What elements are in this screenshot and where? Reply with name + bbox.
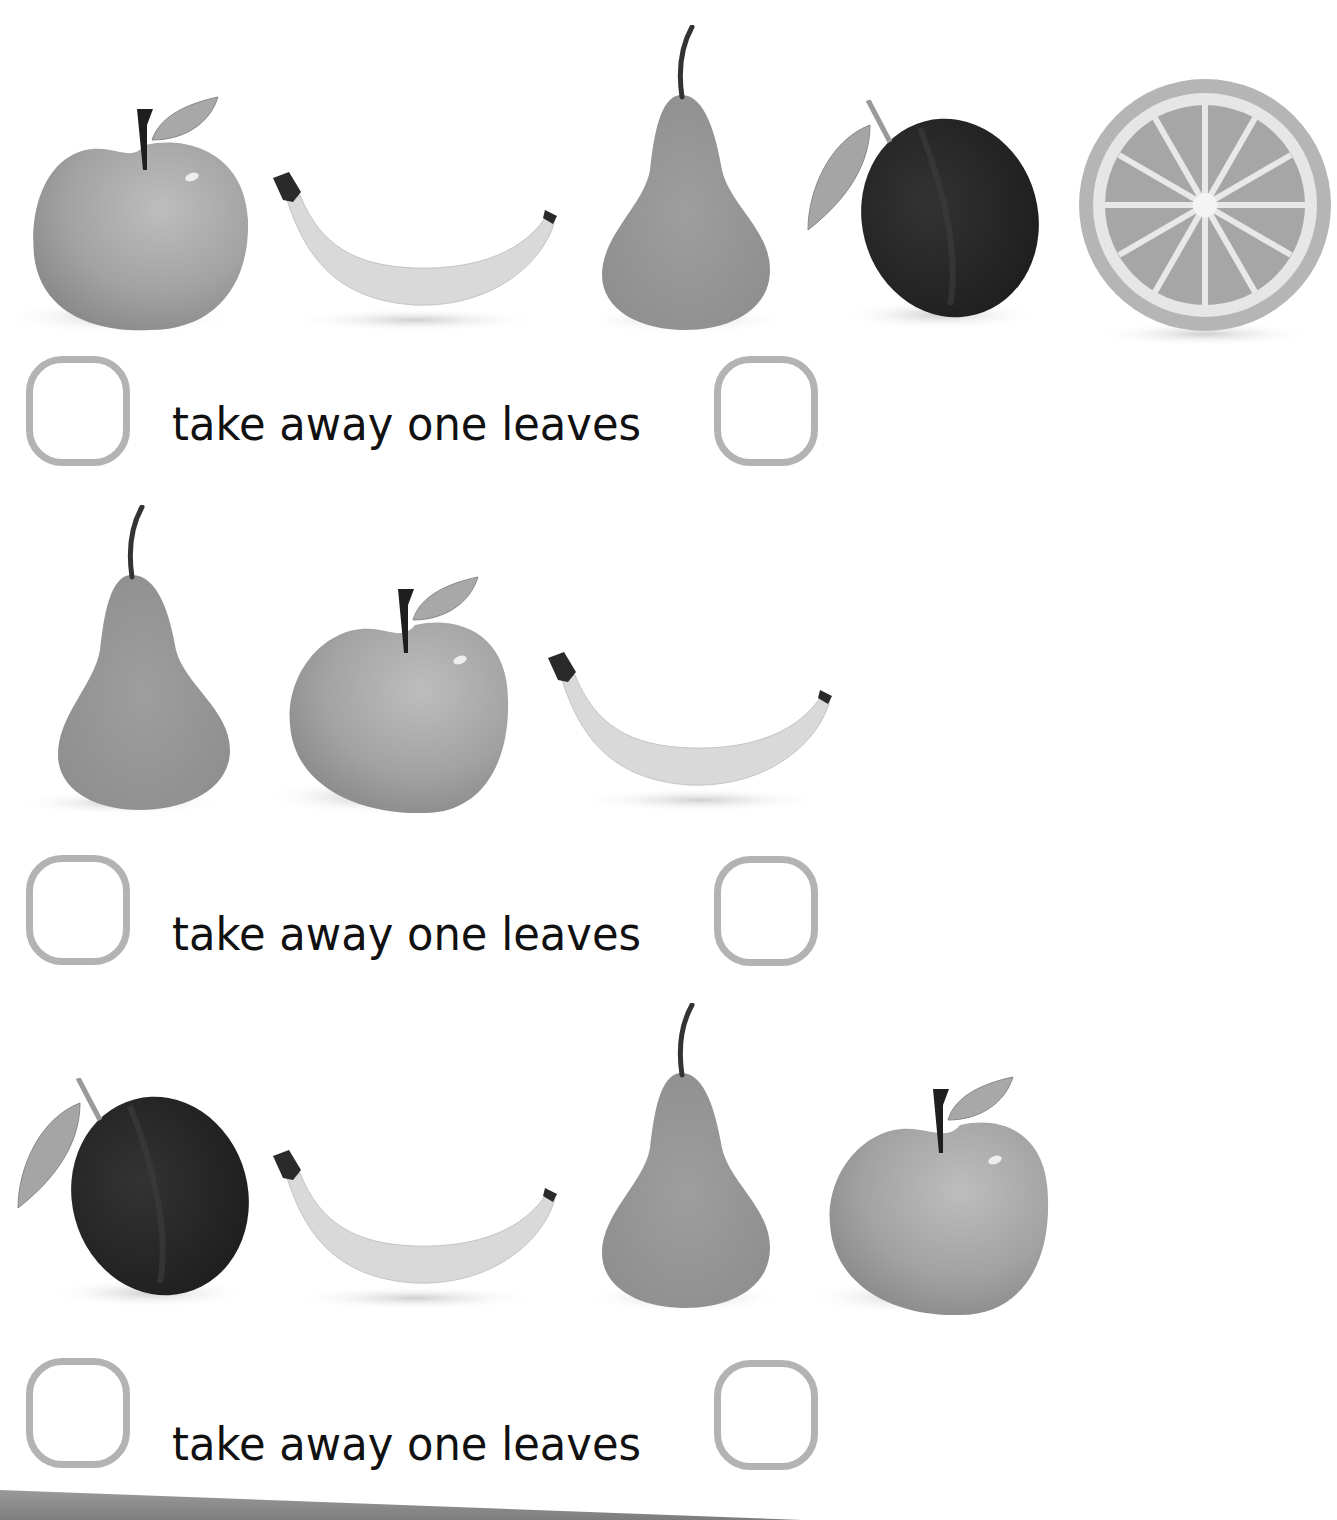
apple-icon (800, 1075, 1060, 1320)
banana-icon (265, 170, 565, 335)
pear-icon (10, 505, 240, 815)
answer-box-right[interactable] (714, 1360, 818, 1470)
answer-box-left[interactable] (26, 356, 130, 466)
apple-icon (0, 95, 260, 340)
pear-icon (580, 25, 790, 335)
orange-slice-icon (1075, 72, 1337, 347)
page-edge-shadow (0, 1490, 1337, 1520)
banana-icon (265, 1148, 565, 1313)
answer-box-right[interactable] (714, 356, 818, 466)
plum-icon (800, 100, 1045, 335)
problem-phrase: take away one leaves (172, 1416, 641, 1471)
plum-icon (10, 1078, 255, 1313)
pear-icon (580, 1003, 790, 1313)
problem-phrase: take away one leaves (172, 396, 641, 451)
answer-box-right[interactable] (714, 856, 818, 966)
answer-box-left[interactable] (26, 855, 130, 965)
banana-icon (540, 650, 840, 815)
answer-box-left[interactable] (26, 1358, 130, 1468)
apple-icon (260, 575, 520, 820)
problem-phrase: take away one leaves (172, 906, 641, 961)
